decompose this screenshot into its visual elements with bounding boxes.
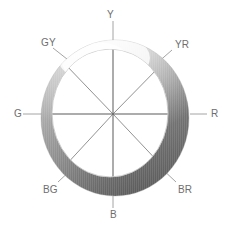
hue-label-bg: BG <box>43 185 58 195</box>
hue-label-yr: YR <box>175 40 189 50</box>
center-point <box>112 113 114 115</box>
hue-label-b: B <box>110 210 117 220</box>
hue-label-g: G <box>14 109 22 119</box>
hue-label-gy: GY <box>41 38 56 48</box>
hue-label-br: BR <box>178 185 192 195</box>
hue-label-y: Y <box>107 10 114 20</box>
ring-top-highlight <box>58 32 150 84</box>
hue-label-r: R <box>211 109 218 119</box>
hue-circle-figure: Y GY YR G R BG BR B <box>0 0 226 229</box>
